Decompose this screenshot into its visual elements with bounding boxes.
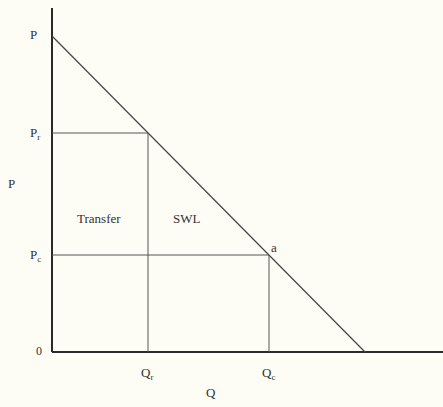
label-pc: Pc: [30, 248, 41, 261]
label-transfer-region: Transfer: [77, 212, 121, 225]
label-qr-main: Q: [141, 365, 150, 380]
label-qc-main: Q: [262, 365, 271, 380]
diagram-canvas: [0, 0, 443, 407]
label-pr: Pr: [30, 126, 40, 139]
label-qr: Qr: [141, 366, 153, 379]
label-qr-sub: r: [150, 372, 153, 382]
label-p-axis: P: [8, 177, 15, 190]
label-origin: 0: [36, 345, 42, 357]
label-qc: Qc: [262, 366, 275, 379]
label-pr-sub: r: [37, 132, 40, 142]
label-qc-sub: c: [271, 372, 275, 382]
label-swl-region: SWL: [173, 212, 200, 225]
label-pc-sub: c: [37, 254, 41, 264]
demand-curve: [52, 36, 365, 352]
label-p-intercept: P: [30, 28, 37, 41]
label-q-axis: Q: [206, 386, 215, 399]
label-point-a: a: [271, 241, 277, 254]
